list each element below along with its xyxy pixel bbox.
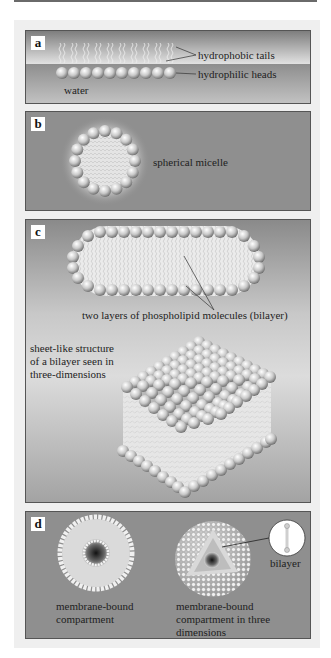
panel-b: b spherical micelle	[25, 111, 311, 211]
label-right-line1: membrane-bound	[176, 600, 254, 612]
label-left-line1: membrane-bound	[56, 600, 134, 612]
label-spherical-micelle: spherical micelle	[153, 156, 228, 168]
label-sheet-line1: sheet-like structure	[30, 342, 114, 354]
label-bilayer: two layers of phospholipid molecules (bi…	[82, 309, 288, 321]
label-water: water	[64, 84, 88, 96]
label-hydrophobic-tails: hydrophobic tails	[198, 49, 275, 61]
label-right-line3: dimensions	[176, 626, 226, 638]
label-right-line2: compartment in three	[176, 613, 270, 625]
panel-letter-c: c	[31, 225, 45, 239]
label-sheet-line3: three-dimensions	[30, 368, 106, 380]
label-bilayer-callout: bilayer	[270, 557, 301, 569]
label-sheet-line2: of a bilayer seen in	[30, 355, 114, 367]
label-hydrophilic-heads: hydrophilic heads	[198, 68, 277, 80]
compartment-2d	[60, 517, 132, 589]
top-rule	[14, 0, 317, 2]
compartment-3d	[175, 521, 251, 597]
panel-letter-d: d	[31, 517, 45, 531]
panel-letter-a: a	[31, 36, 45, 50]
panel-letter-b: b	[31, 117, 45, 131]
panel-d: d membrane-bound compartment membrane-bo…	[25, 511, 311, 639]
label-left-line2: compartment	[56, 613, 114, 625]
panel-c: c two layers of phospholipid molecules (…	[25, 219, 311, 503]
panel-a: a hydrophobic tails hydrophilic heads wa…	[25, 30, 311, 104]
